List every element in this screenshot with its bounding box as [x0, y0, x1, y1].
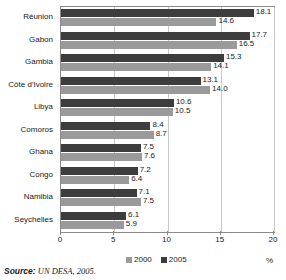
- bar-2000: [61, 131, 154, 139]
- bar-value-label-2000: 10.5: [175, 107, 191, 115]
- axis-tick-label: 5: [111, 235, 115, 245]
- category-axis-labels: RéunionGabonGambiaCôte d'IvoireLibyaComo…: [0, 6, 57, 233]
- bar-value-label-2005: 7.2: [140, 166, 151, 174]
- bar-group: 18.114.6: [61, 7, 274, 30]
- legend-label-2005: 2005: [169, 255, 187, 264]
- bar-value-label-2000: 6.4: [131, 175, 142, 183]
- axis-tick-mark: [273, 231, 274, 235]
- legend: 2000 2005: [126, 255, 187, 264]
- category-label: Gambia: [25, 57, 53, 66]
- plot-area: 18.114.617.716.515.314.113.114.010.610.5…: [60, 6, 275, 233]
- bar-group: 13.114.0: [61, 75, 274, 98]
- bar-2005: [61, 189, 137, 197]
- source-text: UN DESA, 2005.: [36, 266, 96, 276]
- value-axis: 05101520: [60, 235, 275, 247]
- bar-group: 10.610.5: [61, 97, 274, 120]
- bar-value-label-2000: 14.1: [213, 62, 229, 70]
- bar-2005: [61, 167, 138, 175]
- axis-tick-mark: [113, 231, 114, 235]
- legend-swatch-2000-icon: [126, 257, 132, 263]
- bar-value-label-2000: 7.5: [143, 197, 154, 205]
- axis-tick-mark: [60, 231, 61, 235]
- bar-2000: [61, 63, 211, 71]
- legend-label-2000: 2000: [134, 255, 152, 264]
- bar-value-label-2005: 10.6: [176, 98, 192, 106]
- category-label: Comoros: [21, 125, 53, 134]
- bar-group: 8.48.7: [61, 120, 274, 143]
- bar-2005: [61, 54, 224, 62]
- bar-2005: [61, 212, 126, 220]
- bar-2000: [61, 153, 142, 161]
- bar-value-label-2005: 15.3: [226, 53, 242, 61]
- bar-value-label-2000: 5.9: [126, 220, 137, 228]
- bar-2005: [61, 77, 201, 85]
- bar-value-label-2005: 18.1: [256, 8, 272, 16]
- source-prefix: Source:: [4, 266, 36, 276]
- bar-2000: [61, 176, 129, 184]
- category-label: Libya: [34, 102, 53, 111]
- bar-2000: [61, 18, 216, 26]
- axis-tick-label: 0: [58, 235, 62, 245]
- bar-value-label-2005: 8.4: [152, 121, 163, 129]
- bar-2005: [61, 144, 141, 152]
- bar-group: 6.15.9: [61, 210, 274, 233]
- bar-value-label-2000: 16.5: [239, 40, 255, 48]
- bar-2000: [61, 198, 141, 206]
- bar-group: 15.314.1: [61, 52, 274, 75]
- bar-2005: [61, 122, 150, 130]
- category-label: Namibia: [24, 192, 53, 201]
- bar-value-label-2000: 14.0: [212, 85, 228, 93]
- legend-swatch-2005-icon: [161, 257, 167, 263]
- bar-group: 7.26.4: [61, 165, 274, 188]
- axis-tick-label: 10: [162, 235, 171, 245]
- bar-2005: [61, 99, 174, 107]
- bar-group: 7.17.5: [61, 187, 274, 210]
- bar-2000: [61, 221, 124, 229]
- source-note: Source: UN DESA, 2005.: [4, 266, 96, 276]
- category-label: Gabon: [29, 35, 53, 44]
- axis-tick-label: 20: [269, 235, 278, 245]
- category-label: Seychelles: [14, 215, 53, 224]
- bar-value-label-2000: 14.6: [218, 17, 234, 25]
- bar-2000: [61, 41, 237, 49]
- bar-value-label-2000: 8.7: [156, 130, 167, 138]
- bar-group: 7.57.6: [61, 142, 274, 165]
- category-label: Côte d'Ivoire: [8, 80, 53, 89]
- bar-value-label-2005: 7.1: [139, 188, 150, 196]
- bar-2005: [61, 32, 250, 40]
- axis-tick-label: 15: [215, 235, 224, 245]
- bar-value-label-2005: 6.1: [128, 211, 139, 219]
- bar-2000: [61, 108, 173, 116]
- bar-rows: 18.114.617.716.515.314.113.114.010.610.5…: [61, 7, 274, 232]
- bar-2000: [61, 86, 210, 94]
- legend-item-2005: 2005: [161, 255, 187, 264]
- category-label: Ghana: [29, 147, 53, 156]
- bar-value-label-2005: 7.5: [143, 143, 154, 151]
- bar-value-label-2005: 17.7: [252, 31, 268, 39]
- category-label: Congo: [29, 170, 53, 179]
- legend-item-2000: 2000: [126, 255, 152, 264]
- gridline: [274, 7, 275, 232]
- axis-tick-mark: [220, 231, 221, 235]
- bar-value-label-2005: 13.1: [203, 76, 219, 84]
- axis-unit-label: %: [266, 256, 273, 265]
- bar-value-label-2000: 7.6: [144, 152, 155, 160]
- bar-group: 17.716.5: [61, 30, 274, 53]
- axis-tick-mark: [167, 231, 168, 235]
- category-label: Réunion: [23, 12, 53, 21]
- bar-chart: RéunionGabonGambiaCôte d'IvoireLibyaComo…: [0, 0, 286, 280]
